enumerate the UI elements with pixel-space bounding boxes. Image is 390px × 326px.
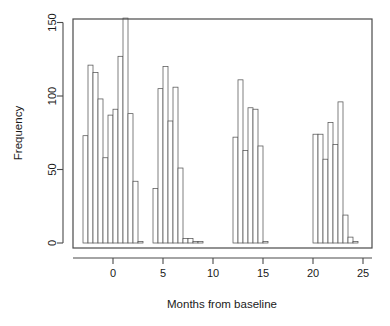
histogram-bar xyxy=(233,137,238,243)
histogram-bar xyxy=(153,189,158,243)
histogram-bar xyxy=(193,242,198,243)
histogram-bar xyxy=(103,158,108,243)
x-axis-tick-label: 10 xyxy=(207,267,219,279)
x-axis-tick-label: 5 xyxy=(160,267,166,279)
histogram-bar xyxy=(333,145,338,243)
x-axis-tick-label: 25 xyxy=(357,267,369,279)
y-axis-tick-label: 100 xyxy=(46,87,58,105)
y-axis: 050100150 xyxy=(46,13,63,246)
x-axis-tick-label: 15 xyxy=(257,267,269,279)
histogram-bar xyxy=(108,115,113,243)
histogram-bar xyxy=(248,108,253,243)
histogram-bar xyxy=(188,239,193,243)
chart-canvas: 0510152025 050100150 Months from baselin… xyxy=(0,0,390,326)
histogram-bar xyxy=(338,102,343,243)
x-axis: 0510152025 xyxy=(73,258,372,279)
histogram-plot: 0510152025 050100150 Months from baselin… xyxy=(0,0,390,326)
histogram-bar xyxy=(353,242,358,243)
histogram-bar xyxy=(118,56,123,243)
bars-layer xyxy=(83,18,358,243)
y-axis-tick-label: 50 xyxy=(46,163,58,175)
histogram-bar xyxy=(128,114,133,243)
y-axis-title: Frequency xyxy=(12,106,24,161)
histogram-bar xyxy=(323,159,328,243)
histogram-bar xyxy=(313,134,318,243)
histogram-bar xyxy=(113,109,118,243)
x-axis-tick-label: 20 xyxy=(307,267,319,279)
histogram-bar xyxy=(348,237,353,243)
histogram-bar xyxy=(258,146,263,243)
histogram-bar xyxy=(173,87,178,243)
histogram-bar xyxy=(168,121,173,243)
histogram-bar xyxy=(123,18,128,243)
histogram-bar xyxy=(198,242,203,243)
histogram-bar xyxy=(88,65,93,243)
histogram-bar xyxy=(158,89,163,243)
histogram-bar xyxy=(343,215,348,243)
histogram-bar xyxy=(243,150,248,243)
histogram-bar xyxy=(83,136,88,243)
histogram-bar xyxy=(133,181,138,243)
y-axis-tick-label: 0 xyxy=(46,240,58,246)
histogram-bar xyxy=(318,134,323,243)
histogram-bar xyxy=(93,72,98,243)
histogram-bar xyxy=(98,99,103,243)
histogram-bar xyxy=(253,109,258,243)
histogram-bar xyxy=(238,80,243,243)
histogram-bar xyxy=(183,239,188,243)
histogram-bar xyxy=(328,122,333,243)
histogram-bar xyxy=(263,242,268,243)
histogram-bar xyxy=(178,168,183,243)
x-axis-title: Months from baseline xyxy=(167,298,277,310)
histogram-bar xyxy=(138,242,143,243)
histogram-bar xyxy=(163,67,168,243)
y-axis-tick-label: 150 xyxy=(46,13,58,31)
x-axis-tick-label: 0 xyxy=(110,267,116,279)
